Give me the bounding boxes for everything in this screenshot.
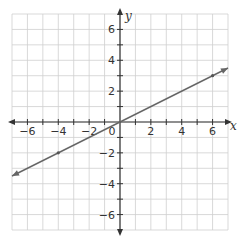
coordinate-plane: −6−4−20246−6−4−2246 x y	[0, 0, 239, 244]
x-tick-label: 6	[209, 125, 216, 138]
x-tick-label: −2	[81, 125, 97, 138]
x-tick-label: 2	[147, 125, 154, 138]
y-tick-label: −6	[99, 209, 115, 222]
x-axis-arrow-left-icon	[8, 119, 15, 125]
x-tick-label: 4	[178, 125, 185, 138]
y-axis-arrow-up-icon	[117, 8, 123, 15]
y-axis-label: y	[124, 9, 132, 23]
y-tick-label: 4	[108, 54, 115, 67]
y-tick-label: 2	[108, 85, 115, 98]
y-tick-label: −2	[99, 147, 115, 160]
x-tick-label: −4	[50, 125, 66, 138]
data-point	[211, 74, 214, 77]
x-tick-label: −6	[19, 125, 35, 138]
y-tick-label: −4	[99, 178, 115, 191]
y-axis-arrow-down-icon	[117, 229, 123, 236]
y-tick-label: 6	[108, 23, 115, 36]
data-point	[57, 151, 60, 154]
x-axis-label: x	[230, 119, 237, 133]
